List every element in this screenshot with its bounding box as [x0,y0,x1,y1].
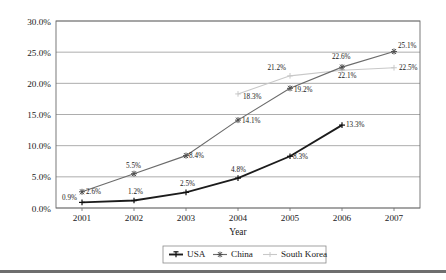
data-label: 2.6% [86,188,101,196]
data-label: 22.5% [399,64,418,72]
y-tick-label: 10.0% [27,141,51,151]
data-label: 8.3% [293,153,308,161]
y-tick-label: 25.0% [27,48,51,58]
data-label: 4.8% [231,166,246,174]
legend-item-usa[interactable]: USA [169,249,206,259]
x-tick-label: 2001 [73,213,92,223]
x-tick-label: 2006 [333,213,352,223]
x-tick-label: 2002 [125,213,144,223]
data-label: 21.2% [267,64,286,72]
x-axis-labels: 2001 2002 2003 2004 2005 2006 2007 [73,213,404,223]
data-label: 22.1% [338,72,357,80]
data-label: 1.2% [128,188,143,196]
data-label: 5.5% [126,162,141,170]
x-axis-title: Year [229,227,247,237]
y-tick-label: 5.0% [32,172,51,182]
data-label: 19.2% [294,86,313,94]
data-label: 18.3% [243,93,262,101]
legend-item-south-korea[interactable]: South Korea [263,249,327,259]
y-tick-label: 30.0% [27,17,51,27]
legend-label-usa: USA [187,249,206,259]
chart-legend: USA China South Korea [163,246,327,263]
data-label: 0.9% [62,194,77,202]
data-label: 2.5% [180,180,195,188]
y-tick-label: 0.0% [32,204,51,214]
data-label: 25.1% [398,42,417,50]
y-axis-labels: 30.0% 25.0% 20.0% 15.0% 10.0% 5.0% 0.0% [27,17,51,214]
x-tick-label: 2005 [281,213,300,223]
x-tick-label: 2003 [177,213,196,223]
legend-label-south-korea: South Korea [281,249,327,259]
y-tick-label: 15.0% [27,110,51,120]
x-tick-label: 2007 [385,213,404,223]
x-tick-label: 2004 [229,213,248,223]
data-label: 13.3% [346,121,365,129]
legend-label-china: China [231,249,253,259]
line-chart: 30.0% 25.0% 20.0% 15.0% 10.0% 5.0% 0.0% … [0,0,446,280]
legend-item-china[interactable]: China [213,249,253,259]
data-label: 8.4% [189,152,204,160]
data-label: 14.1% [242,117,261,125]
bottom-divider [0,270,446,273]
chart-canvas: 30.0% 25.0% 20.0% 15.0% 10.0% 5.0% 0.0% … [0,0,446,280]
data-label: 22.6% [332,53,351,61]
y-tick-label: 20.0% [27,79,51,89]
